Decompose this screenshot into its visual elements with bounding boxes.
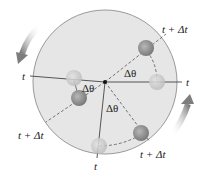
label-t-left: t — [22, 70, 26, 82]
particle-start-bottom — [91, 138, 107, 154]
label-t-dt-top-right: t + Δt — [162, 23, 188, 35]
particle-end-bottom-right — [133, 125, 149, 141]
rotating-disk-diagram: t t t t + Δt t + Δt t + Δt Δθ Δθ Δθ — [0, 0, 204, 179]
label-t-dt-left: t + Δt — [18, 129, 44, 141]
particle-start-right — [149, 74, 165, 90]
rotation-arrow-top-left-icon — [16, 26, 40, 64]
center-pivot — [103, 80, 107, 84]
label-t-right: t — [186, 76, 190, 88]
particle-end-top-right — [138, 40, 154, 56]
label-t-dt-bottom-right: t + Δt — [140, 148, 166, 160]
particle-start-left — [66, 70, 82, 86]
rotation-arrow-bottom-right-icon — [172, 94, 194, 134]
label-t-bottom: t — [94, 160, 98, 172]
label-delta-theta-1: Δθ — [124, 67, 136, 79]
label-delta-theta-2: Δθ — [82, 82, 94, 94]
label-delta-theta-3: Δθ — [106, 102, 118, 114]
